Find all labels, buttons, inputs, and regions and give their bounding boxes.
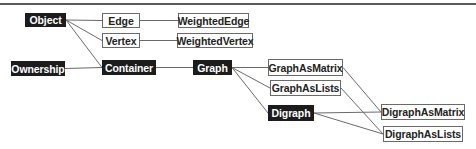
- connector-digraph-digraphaslists: [314, 113, 383, 134]
- node-digraphasmatrix[interactable]: DigraphAsMatrix: [381, 104, 465, 120]
- connector-object-container: [66, 20, 102, 68]
- connector-object-vertex: [66, 20, 102, 41]
- connector-graph-digraph: [232, 68, 268, 114]
- node-edge[interactable]: Edge: [102, 13, 140, 28]
- node-weightededge[interactable]: WeightedEdge: [178, 13, 249, 28]
- node-digraphaslists[interactable]: DigraphAsLists: [383, 126, 463, 142]
- node-object[interactable]: Object: [25, 13, 66, 27]
- node-ownership[interactable]: Ownership: [11, 61, 65, 76]
- node-graph[interactable]: Graph: [193, 60, 232, 75]
- node-graphasmatrix[interactable]: GraphAsMatrix: [268, 59, 343, 76]
- node-digraph[interactable]: Digraph: [268, 105, 314, 121]
- connector-object-edge: [66, 20, 102, 21]
- node-weightedvertex[interactable]: WeightedVertex: [177, 33, 253, 48]
- node-container[interactable]: Container: [102, 60, 156, 75]
- node-vertex[interactable]: Vertex: [102, 33, 140, 48]
- connector-ownership-container: [65, 68, 102, 69]
- connector-digraph-digraphasmatrix: [314, 112, 381, 113]
- node-graphaslists[interactable]: GraphAsLists: [270, 80, 341, 96]
- connector-graphasmatrix-digraphasmatrix: [343, 68, 381, 113]
- connector-graph-graphaslists: [232, 68, 270, 89]
